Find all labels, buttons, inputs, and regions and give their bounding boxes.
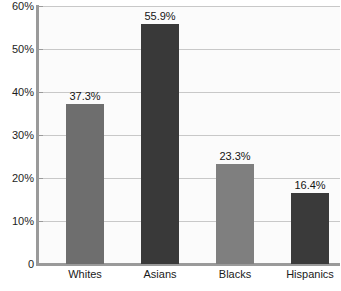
y-tick-label-40: 40% xyxy=(0,87,34,98)
y-axis-tick-labels: 60% 50% 40% 30% 20% 10% 0 xyxy=(0,0,34,291)
category-label-hispanics: Hispanics xyxy=(275,268,341,281)
bar-asians[interactable] xyxy=(141,24,179,264)
bar-value-asians: 55.9% xyxy=(130,10,190,22)
bar-value-whites: 37.3% xyxy=(55,90,115,102)
bars-layer: 37.3% 55.9% 23.3% 16.4% xyxy=(38,6,340,264)
y-tick-label-0: 0 xyxy=(0,259,34,270)
y-tick-label-20: 20% xyxy=(0,173,34,184)
category-label-asians: Asians xyxy=(125,268,195,281)
category-label-blacks: Blacks xyxy=(200,268,270,281)
bar-blacks[interactable] xyxy=(216,164,254,264)
y-tick-label-10: 10% xyxy=(0,216,34,227)
bar-hispanics[interactable] xyxy=(291,193,329,264)
bar-chart: 60% 50% 40% 30% 20% 10% 0 37.3% 55.9% 23… xyxy=(0,0,341,291)
y-tick-label-60: 60% xyxy=(0,1,34,12)
bar-value-hispanics: 16.4% xyxy=(280,179,340,191)
bar-whites[interactable] xyxy=(66,104,104,264)
bar-value-blacks: 23.3% xyxy=(205,150,265,162)
category-label-whites: Whites xyxy=(50,268,120,281)
y-tick-label-50: 50% xyxy=(0,44,34,55)
y-tick-label-30: 30% xyxy=(0,130,34,141)
x-axis-category-labels: Whites Asians Blacks Hispanics xyxy=(38,268,340,288)
